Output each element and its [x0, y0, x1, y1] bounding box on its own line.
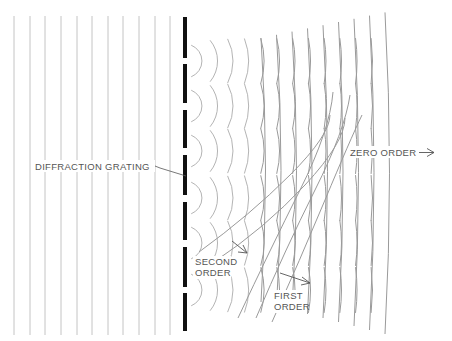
wavelet-arc: [191, 45, 202, 77]
wavelet-arc: [228, 39, 233, 83]
wavelet-arc: [210, 85, 217, 126]
wavelet-arc: [261, 175, 264, 220]
zero-order-arrow-icon: [419, 149, 434, 157]
grating-bar: [183, 64, 187, 103]
grating-bar: [183, 202, 187, 240]
wavelet-arc: [244, 84, 248, 129]
zero-order-label-text: ZERO ORDER: [350, 147, 416, 158]
zero-order-wavefront: [385, 12, 390, 334]
wavelet-arc: [244, 39, 248, 84]
wavelet-arc: [228, 176, 233, 220]
wavelet-arc: [261, 128, 264, 173]
wavelet-arc: [340, 175, 342, 221]
wavelet-arc: [191, 227, 202, 259]
second-order-label-line1: SECOND: [195, 256, 237, 267]
diffraction-diagram: DIFFRACTION GRATING ZERO ORDER SECOND OR…: [0, 0, 452, 341]
zero-order-wavefront: [339, 22, 344, 322]
wavelet-arc: [191, 90, 202, 122]
wavelet-arc: [277, 175, 280, 221]
zero-order-wavefront: [354, 19, 359, 326]
wavelet-arc: [308, 128, 310, 174]
grating-label-text: DIFFRACTION GRATING: [35, 161, 150, 172]
grating-bar: [183, 247, 187, 287]
first-order-label-line1: FIRST: [274, 290, 303, 301]
grating-bar: [183, 110, 187, 148]
wavelet-arc: [244, 129, 248, 174]
wavelet-arc: [371, 175, 372, 221]
zero-order-label: ZERO ORDER: [349, 146, 434, 158]
wavelet-arc: [277, 128, 280, 174]
wavelet-arc: [293, 128, 295, 174]
wavelet-arc: [308, 175, 310, 221]
wavelet-arc: [228, 129, 233, 173]
wavelet-arc: [210, 177, 217, 218]
second-order-label-line2: ORDER: [195, 267, 231, 278]
second-order-arrow-icon: [232, 241, 247, 253]
wavelet-arc: [228, 84, 233, 128]
zero-order-wavefronts: [261, 12, 390, 334]
wavelet-arc: [191, 135, 202, 167]
zero-order-wavefront: [308, 28, 313, 314]
zero-order-wavefront: [370, 16, 375, 330]
wavelet-arc: [244, 268, 248, 313]
diffraction-grating: [183, 17, 187, 331]
grating-label: DIFFRACTION GRATING: [33, 160, 186, 176]
wavelet-arc: [356, 175, 358, 221]
wavelet-arc: [210, 40, 217, 81]
wavelet-arc: [210, 130, 217, 171]
grating-bar: [183, 17, 187, 58]
wavelet-arc: [244, 221, 248, 266]
wavelet-arc: [191, 182, 202, 214]
incident-plane-waves: [14, 16, 170, 335]
grating-bar: [183, 293, 187, 331]
first-order-label-line2: ORDER: [274, 301, 310, 312]
